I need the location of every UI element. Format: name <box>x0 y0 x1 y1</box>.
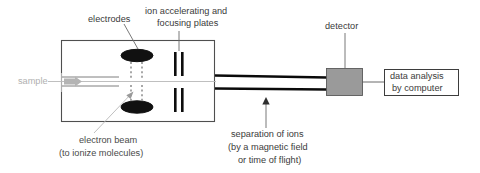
electron-beam-label-line1: electron beam <box>79 135 138 145</box>
sample-label: sample <box>18 76 48 86</box>
upper-electrode <box>121 49 153 61</box>
detector-box <box>327 69 363 96</box>
ion-plates-label-line2: focusing plates <box>157 18 219 28</box>
ion-plates-label-line1: ion accelerating and <box>145 6 227 16</box>
ion-beam-lower <box>215 89 327 90</box>
separation-label-line3: or time of flight) <box>238 155 301 165</box>
accelerating-plate-lower-right <box>181 88 184 112</box>
separation-label-line2: (by a magnetic field <box>228 142 308 152</box>
data-analysis-label-line1: data analysis <box>390 71 444 81</box>
accelerating-plate-upper-left <box>174 52 177 76</box>
electron-beam-label-line2: (to ionize molecules) <box>59 148 143 158</box>
diagram-canvas: electrodes ion accelerating and focusing… <box>0 0 480 173</box>
lower-electrode <box>121 101 153 113</box>
data-analysis-label-line2: by computer <box>392 83 443 93</box>
separation-label-line1: separation of ions <box>231 129 304 139</box>
accelerating-plate-upper-right <box>181 52 184 76</box>
accelerating-plate-lower-left <box>174 88 177 112</box>
electrodes-label: electrodes <box>88 14 131 24</box>
separation-arrowhead <box>262 97 269 105</box>
detector-label: detector <box>325 21 358 31</box>
ion-beam-upper <box>215 76 327 78</box>
